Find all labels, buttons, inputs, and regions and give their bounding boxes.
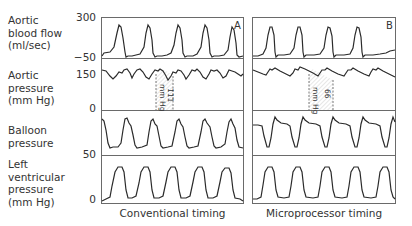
panel-b-pressure-annotation: 66 mm Hg xyxy=(309,69,333,115)
panel-b-letter: B xyxy=(386,20,393,31)
panel-a-frame xyxy=(101,18,244,204)
panel-b-annotation-value: 66 xyxy=(323,89,332,99)
panel-b-balloon-trace xyxy=(253,117,395,147)
panel-b-lv-trace xyxy=(253,167,395,199)
panel-a-balloon-trace xyxy=(102,118,243,148)
panel-a-letter: A xyxy=(234,20,241,31)
panel-b-caption: Microprocessor timing xyxy=(252,207,396,219)
panel-b-flow-trace xyxy=(253,27,395,57)
panel-a-caption: Conventional timing xyxy=(101,207,244,219)
panel-b-annotation-unit: mm Hg xyxy=(311,87,320,115)
panel-a-pressure-annotation: 111 mm Hg xyxy=(156,69,175,112)
panel-a-annotation-unit: mm Hg xyxy=(158,84,167,112)
panel-a-flow-trace xyxy=(102,25,243,57)
panel-a-lv-trace xyxy=(102,167,243,201)
waveform-plot: 111 mm Hg 66 mm Hg A B xyxy=(0,0,412,226)
